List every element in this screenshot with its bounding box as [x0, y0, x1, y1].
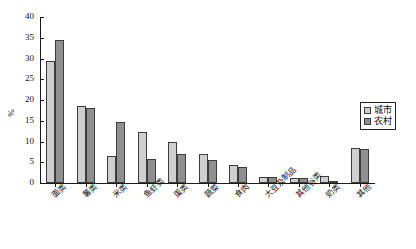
bar-group: [168, 142, 186, 183]
bar: [107, 156, 116, 183]
bar-group: [351, 148, 369, 183]
bar: [46, 61, 55, 183]
bar: [229, 165, 238, 183]
bar: [55, 40, 64, 183]
y-axis-tick-label: 0: [12, 178, 34, 187]
bar: [86, 108, 95, 183]
bar: [351, 148, 360, 183]
y-axis-tick-label: 20: [12, 95, 34, 104]
y-axis-tick-label: 5: [12, 157, 34, 166]
bar-group: [107, 122, 125, 183]
bar: [77, 106, 86, 183]
bar-chart: % 0510152025303540 面类薯类米类鱼虾类蛋类蔬菜食肉大豆及制品其…: [0, 0, 416, 249]
bar: [177, 154, 186, 183]
bar: [259, 177, 268, 183]
legend-item-rural: 农村: [364, 116, 392, 127]
bar-series-area: [40, 17, 375, 183]
legend-swatch-icon-rural: [364, 118, 371, 125]
bar-group: [77, 106, 95, 183]
bar-group: [46, 40, 64, 183]
bar-group: [229, 165, 247, 183]
chart-legend: 城市 农村: [360, 102, 396, 130]
legend-item-urban: 城市: [364, 105, 392, 116]
bar: [168, 142, 177, 183]
bar: [116, 122, 125, 183]
y-axis-tick-label: 35: [12, 33, 34, 42]
bar: [360, 149, 369, 183]
bar: [208, 160, 217, 183]
bar-group: [199, 154, 217, 183]
y-axis-tick-label: 15: [12, 116, 34, 125]
legend-swatch-icon-urban: [364, 107, 371, 114]
legend-label-rural: 农村: [374, 117, 392, 126]
bar: [290, 178, 299, 183]
y-axis-tick-label: 10: [12, 137, 34, 146]
bar-group: [138, 132, 156, 183]
y-axis-tick-label: 30: [12, 54, 34, 63]
y-axis-tick: [40, 183, 44, 184]
bar: [138, 132, 147, 183]
y-axis-tick-label: 25: [12, 74, 34, 83]
y-axis-tick-label: 40: [12, 12, 34, 21]
legend-label-urban: 城市: [374, 106, 392, 115]
bar: [199, 154, 208, 183]
